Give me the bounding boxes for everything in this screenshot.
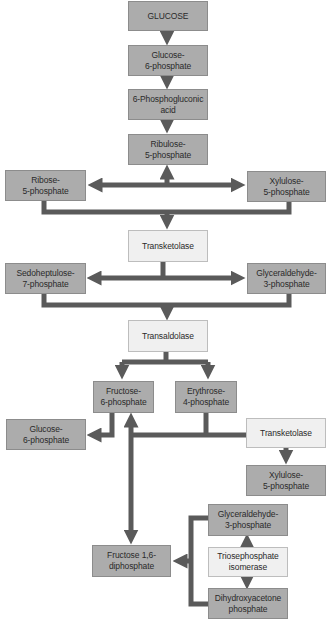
- node-fructose-1-6-diphosphate: Fructose 1,6- diphosphate: [92, 545, 171, 577]
- node-xylulose-5-phosphate-bottom: Xylulose- 5-phosphate: [246, 465, 326, 496]
- node-triosephosphate-isomerase: Triosephosphate isomerase: [208, 547, 288, 577]
- node-label: Dihydroxyacetone phosphate: [215, 593, 281, 615]
- node-label: Glyceraldehyde- 3-phosphate: [256, 268, 316, 290]
- node-label: Sedoheptulose- 7-phosphate: [16, 268, 74, 290]
- node-label: GLUCOSE: [148, 11, 189, 22]
- node-label: Ribulose- 5-phosphate: [145, 139, 191, 161]
- node-glyceraldehyde-3-phosphate-top: Glyceraldehyde- 3-phosphate: [247, 263, 326, 294]
- node-label: Fructose 1,6- diphosphate: [107, 550, 156, 572]
- node-sedoheptulose-7-phosphate: Sedoheptulose- 7-phosphate: [5, 263, 86, 294]
- node-label: Ribose- 5-phosphate: [22, 175, 68, 197]
- node-erythrose-4-phosphate: Erythrose- 4-phosphate: [175, 381, 237, 413]
- node-xylulose-5-phosphate-top: Xylulose- 5-phosphate: [247, 171, 326, 202]
- node-transketolase-2: Transketolase: [246, 418, 326, 448]
- connector-line: [44, 294, 289, 305]
- pentose-phosphate-pathway-diagram: GLUCOSE Glucose- 6-phosphate 6-Phosphogl…: [0, 0, 329, 629]
- node-label: Triosephosphate isomerase: [217, 551, 279, 573]
- node-label: 6-Phosphogluconic acid: [133, 94, 204, 116]
- connector-line: [100, 413, 112, 435]
- node-dihydroxyacetone-phosphate: Dihydroxyacetone phosphate: [208, 588, 288, 619]
- node-label: Transketolase: [260, 428, 312, 439]
- node-label: Xylulose- 5-phosphate: [263, 176, 309, 198]
- connector-line: [44, 201, 289, 212]
- node-6-phosphogluconic-acid: 6-Phosphogluconic acid: [128, 89, 208, 120]
- node-glucose: GLUCOSE: [128, 1, 208, 31]
- node-fructose-6-phosphate: Fructose- 6-phosphate: [93, 381, 154, 413]
- node-label: Glyceraldehyde- 3-phosphate: [218, 509, 278, 531]
- node-transketolase-1: Transketolase: [128, 230, 208, 262]
- node-glucose-6-phosphate-left: Glucose- 6-phosphate: [6, 419, 86, 450]
- node-label: Glucose- 6-phosphate: [23, 424, 69, 446]
- node-label: Xylulose- 5-phosphate: [263, 470, 309, 492]
- node-label: Transaldolase: [142, 331, 194, 342]
- node-glucose-6-phosphate-top: Glucose- 6-phosphate: [128, 45, 208, 76]
- node-glyceraldehyde-3-phosphate-bottom: Glyceraldehyde- 3-phosphate: [208, 504, 288, 536]
- node-ribose-5-phosphate: Ribose- 5-phosphate: [5, 170, 86, 201]
- node-label: Erythrose- 4-phosphate: [183, 386, 229, 408]
- node-label: Glucose- 6-phosphate: [145, 50, 191, 72]
- node-transaldolase: Transaldolase: [128, 320, 208, 352]
- connector-line: [191, 518, 208, 604]
- node-label: Transketolase: [142, 241, 194, 252]
- node-ribulose-5-phosphate: Ribulose- 5-phosphate: [128, 134, 208, 165]
- node-label: Fructose- 6-phosphate: [100, 386, 146, 408]
